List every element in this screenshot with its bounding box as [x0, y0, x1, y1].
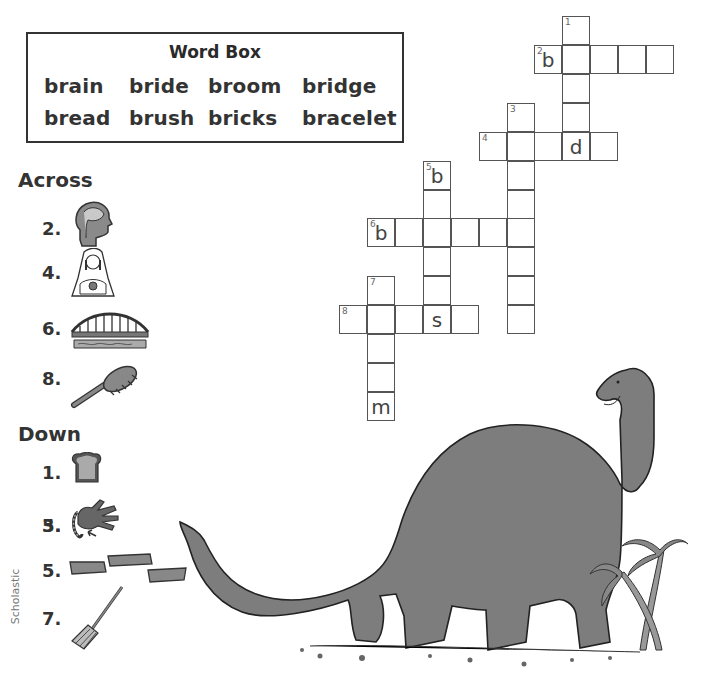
hairbrush-icon [70, 365, 140, 411]
crossword-cell[interactable] [367, 305, 395, 334]
given-letter: b [424, 163, 450, 189]
down-clue-3-number: 3. [42, 515, 61, 536]
across-clue-8-number: 8. [42, 368, 61, 389]
given-letter: s [424, 307, 450, 333]
word-box-title: Word Box [28, 42, 402, 62]
word-brush: brush [129, 106, 195, 130]
crossword-cell[interactable]: 8 [339, 305, 367, 334]
crossword-cell[interactable] [590, 45, 618, 74]
clue-number-label: 1 [565, 17, 571, 27]
clue-number-label: 3 [510, 104, 516, 114]
down-clue-5-number: 5. [42, 560, 61, 581]
down-heading: Down [18, 422, 81, 446]
clue-number-label: 4 [482, 133, 488, 143]
bread-slice-icon [70, 452, 102, 486]
crossword-cell[interactable]: 7 [367, 276, 395, 305]
crossword-cell[interactable] [423, 218, 451, 247]
down-clue-1-number: 1. [42, 462, 61, 483]
word-broom: broom [208, 74, 282, 98]
crossword-cell[interactable]: 5b [423, 161, 451, 190]
crossword-cell[interactable] [618, 45, 646, 74]
word-box: Word Box brain bride broom bridge bread … [26, 32, 404, 143]
crossword-cell[interactable]: 4 [479, 132, 507, 161]
crossword-cell[interactable] [395, 305, 423, 334]
crossword-cell[interactable] [507, 247, 535, 276]
word-bricks: bricks [208, 106, 277, 130]
broom-icon [70, 585, 126, 651]
crossword-cell[interactable] [562, 103, 590, 132]
given-letter: b [535, 47, 561, 73]
crossword-cell[interactable] [507, 218, 535, 247]
given-letter: d [563, 134, 589, 160]
bridge-icon [70, 306, 150, 352]
crossword-cell[interactable] [507, 190, 535, 219]
crossword-cell[interactable] [507, 161, 535, 190]
crossword-cell[interactable] [562, 45, 590, 74]
crossword-cell[interactable] [507, 132, 535, 161]
crossword-cell[interactable] [590, 132, 618, 161]
crossword-cell[interactable] [395, 218, 423, 247]
crossword-cell[interactable] [479, 218, 507, 247]
crossword-cell[interactable] [451, 218, 479, 247]
crossword-cell[interactable] [451, 305, 479, 334]
across-heading: Across [18, 168, 93, 192]
crossword-cell[interactable]: 1 [562, 16, 590, 45]
down-clue-7-number: 7. [42, 608, 61, 629]
crossword-cell[interactable]: 2b [534, 45, 562, 74]
word-bride: bride [129, 74, 189, 98]
crossword-cell[interactable]: d [562, 132, 590, 161]
crossword-cell[interactable] [534, 132, 562, 161]
word-bridge: bridge [302, 74, 376, 98]
clue-number-label: 8 [342, 306, 348, 316]
across-clue-2-number: 2. [42, 218, 61, 239]
crossword-cell[interactable]: 6b [367, 218, 395, 247]
publisher-credit: Scholastic [9, 569, 22, 625]
word-bracelet: bracelet [302, 106, 397, 130]
crossword-cell[interactable] [367, 334, 395, 363]
brain-head-icon [72, 200, 114, 248]
crossword-cell[interactable]: s [423, 305, 451, 334]
bride-icon [70, 248, 116, 298]
across-clue-6-number: 6. [42, 318, 61, 339]
crossword-cell[interactable]: 3 [507, 103, 535, 132]
crossword-cell[interactable] [507, 276, 535, 305]
brontosaurus-illustration [170, 360, 700, 680]
crossword-cell[interactable] [562, 74, 590, 103]
word-bread: bread [44, 106, 111, 130]
crossword-cell[interactable] [507, 305, 535, 334]
hand-bracelet-icon [70, 494, 122, 542]
given-letter: b [368, 220, 394, 246]
clue-number-label: 7 [370, 277, 376, 287]
across-clue-4-number: 4. [42, 262, 61, 283]
crossword-cell[interactable] [646, 45, 674, 74]
crossword-cell[interactable] [423, 247, 451, 276]
crossword-cell[interactable] [423, 190, 451, 219]
word-brain: brain [44, 74, 104, 98]
crossword-cell[interactable] [423, 276, 451, 305]
